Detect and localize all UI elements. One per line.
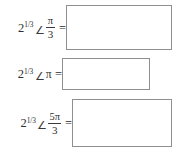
exponent-3: 1/3 [27, 117, 36, 124]
angle-icon-2: ∠ [35, 71, 45, 82]
equals-sign-1: = [59, 22, 66, 35]
angle-numerator-3: 5π [48, 112, 61, 123]
angle-icon-1: ∠ [35, 25, 45, 36]
angle-fraction-3: 5π3 [48, 112, 61, 136]
exponent-1: 1/3 [24, 21, 33, 28]
equals-sign-3: = [65, 117, 72, 130]
angle-denominator-1: 3 [47, 28, 55, 40]
angle-numerator-1: π [47, 16, 54, 27]
angle-value-2: π [46, 69, 52, 81]
exponent-2: 1/3 [24, 68, 33, 75]
answer-box-3[interactable] [72, 99, 172, 147]
equals-sign-2: = [55, 68, 62, 81]
expression-3: 21/3∠5π3= [0, 112, 72, 136]
answer-box-2[interactable] [62, 58, 150, 90]
expression-1: 21/3∠π3= [0, 16, 66, 40]
answer-box-1[interactable] [66, 5, 172, 50]
expression-2: 21/3∠π= [0, 68, 62, 81]
angle-fraction-1: π3 [46, 16, 55, 40]
angle-icon-3: ∠ [37, 120, 47, 131]
math-worksheet: 21/3∠π3= 21/3∠π= 21/3∠5π3= [0, 0, 180, 153]
angle-denominator-3: 3 [51, 124, 59, 136]
